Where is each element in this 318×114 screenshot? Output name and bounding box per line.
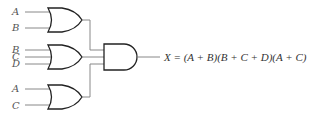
or-gate-1: [48, 8, 82, 32]
output-expression: X = (A + B)(B + C + D)(A + C): [163, 51, 307, 64]
input-label-a1: A: [11, 6, 19, 17]
input-label-a3: A: [11, 83, 19, 94]
input-label-d2: D: [11, 58, 20, 69]
or-gate-3: [48, 85, 82, 109]
or-gate-2: [48, 45, 82, 69]
input-label-c3: C: [12, 100, 20, 111]
intermediate-wires: [82, 20, 104, 97]
input-label-b1: B: [11, 22, 19, 33]
logic-diagram: A B B C D A C X = (A + B)(B + C + D)(A +…: [0, 0, 318, 114]
and-gate: [104, 44, 137, 70]
input-wires: [25, 12, 52, 105]
